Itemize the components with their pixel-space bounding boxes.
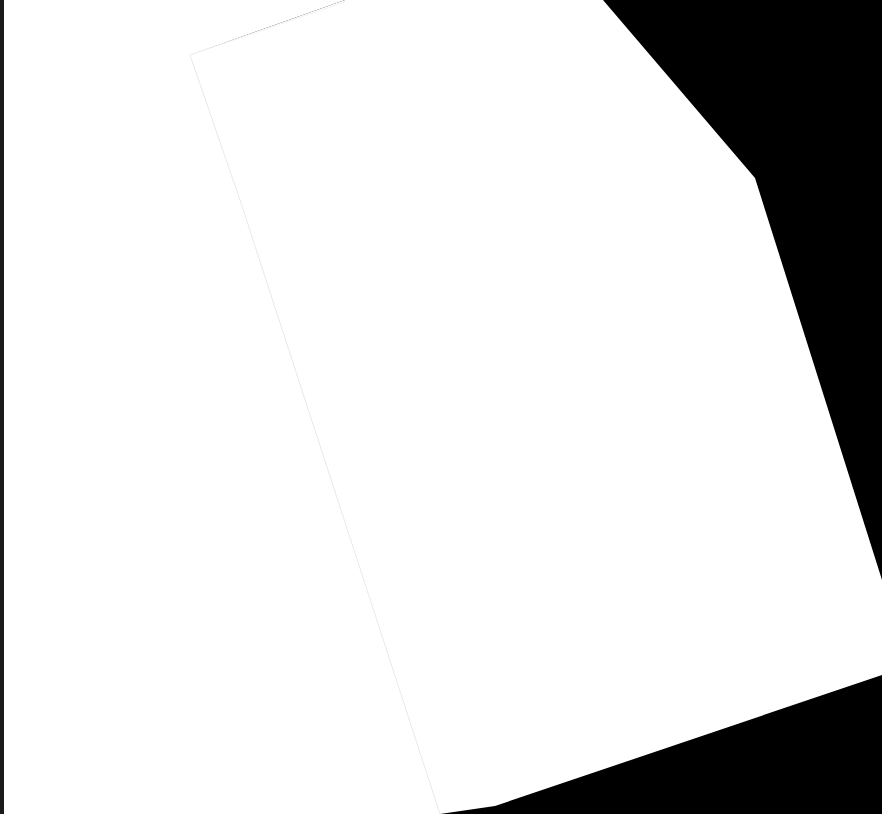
left-scan-border [0, 0, 4, 814]
sheets-canvas [0, 0, 882, 814]
scan-scene [0, 0, 882, 814]
